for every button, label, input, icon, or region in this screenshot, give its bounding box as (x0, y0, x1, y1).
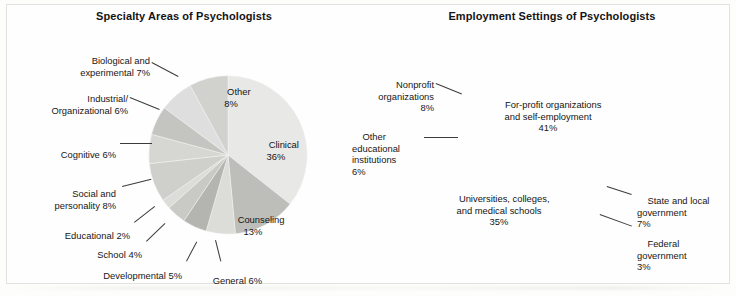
callout-label-federal: Federal government 3% (637, 227, 727, 284)
callout-label-other-educational: Other educational institutions 6% (352, 120, 426, 188)
slice-label-clinical: Clinical 36% (246, 128, 306, 174)
leader-line-other-educational (424, 137, 458, 138)
leader-line-social (122, 179, 151, 187)
page-shadow (8, 286, 724, 290)
callout-label-social: Social and personality 8% (16, 177, 116, 223)
callout-label-industrial: Industrial/ Organizational 6% (10, 82, 128, 128)
chart-panel-specialty-areas: Specialty Areas of Psychologists Clinica… (0, 0, 368, 296)
leader-line-cognitive (120, 143, 152, 144)
slice-label-other: Other 8% (206, 75, 256, 121)
callout-label-cognitive: Cognitive 6% (22, 138, 116, 172)
callout-label-nonprofit: Nonprofit organizations 8% (348, 68, 434, 125)
slice-label-universities: Universities, colleges, and medical scho… (425, 182, 573, 239)
chart-title-employment-settings: Employment Settings of Psychologists (368, 10, 736, 22)
slice-label-counseling: Counseling 13% (222, 203, 284, 249)
leader-line-developmental (186, 242, 197, 262)
chart-title-specialty-areas: Specialty Areas of Psychologists (0, 10, 368, 22)
leader-line-general (215, 240, 221, 262)
figure-canvas: Specialty Areas of Psychologists Clinica… (0, 0, 736, 296)
slice-label-for-profit: For-profit organizations and self-employ… (475, 88, 621, 145)
callout-label-general: General 6% (197, 264, 287, 296)
